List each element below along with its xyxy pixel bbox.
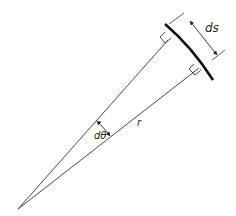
right-angle-marker-upper <box>160 32 171 43</box>
diagram-canvas: ds dθ r <box>0 0 236 216</box>
ds-extension-upper <box>169 13 184 24</box>
right-angle-marker-lower <box>189 64 201 75</box>
label-dtheta: dθ <box>94 130 106 141</box>
label-ds: ds <box>205 21 219 35</box>
upper-radius-line <box>18 40 168 209</box>
label-r: r <box>137 117 142 128</box>
lower-radius-line <box>18 68 199 209</box>
